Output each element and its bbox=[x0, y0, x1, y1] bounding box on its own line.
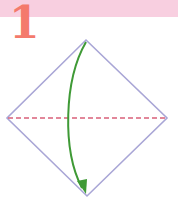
paper-square bbox=[7, 40, 167, 196]
origami-diagram bbox=[0, 0, 178, 204]
